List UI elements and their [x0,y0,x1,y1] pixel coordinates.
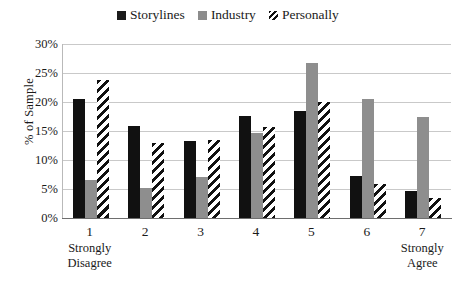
legend-item-personally: Personally [269,8,339,22]
y-tick-label: 0% [41,212,58,225]
bar-storylines-1 [73,99,85,218]
y-tick-label: 20% [35,96,58,109]
bar-group [239,44,275,218]
plot-area [62,44,450,218]
legend-swatch-industry-icon [198,11,207,20]
y-tick-label: 5% [41,183,58,196]
x-tick-caption: Disagree [63,256,117,271]
bar-industry-3 [196,177,208,218]
x-tick-group: 3 [174,222,228,284]
bar-personally-6 [374,184,386,218]
x-axis-tick-labels: 1StronglyDisagree234567StronglyAgree [62,222,450,284]
bar-storylines-4 [239,116,251,218]
bar-storylines-7 [405,191,417,218]
y-tick-label: 15% [35,125,58,138]
bar-industry-4 [251,133,263,218]
x-tick-group: 7StronglyAgree [395,222,449,284]
x-tick-group: 4 [229,222,283,284]
bar-industry-7 [417,117,429,218]
x-tick-number: 3 [174,222,228,241]
y-tick-label: 25% [35,67,58,80]
bar-personally-4 [263,127,275,218]
legend-item-storylines: Storylines [117,8,185,22]
x-tick-caption: Agree [395,256,449,271]
bar-personally-2 [152,143,164,218]
bar-group [350,44,386,218]
x-tick-group: 1StronglyDisagree [63,222,117,284]
bar-group [128,44,164,218]
bar-group [73,44,109,218]
legend-label-industry: Industry [211,8,256,22]
x-tick-number: 7 [395,222,449,241]
bar-industry-1 [85,180,97,218]
bar-group [184,44,220,218]
bar-personally-3 [208,140,220,218]
legend-swatch-storylines-icon [117,11,126,20]
bar-storylines-6 [350,176,362,218]
x-tick-number: 5 [284,222,338,241]
x-tick-group: 5 [284,222,338,284]
x-tick-caption: Strongly [63,241,117,256]
x-tick-group: 6 [340,222,394,284]
chart-legend: Storylines Industry Personally [0,4,456,26]
legend-label-personally: Personally [282,8,339,22]
y-tick-label: 10% [35,154,58,167]
x-tick-number: 1 [63,222,117,241]
bar-personally-7 [429,198,441,218]
bar-storylines-3 [184,141,196,218]
x-tick-number: 6 [340,222,394,241]
bar-storylines-5 [294,111,306,218]
legend-swatch-personally-icon [269,11,278,20]
bar-industry-5 [306,63,318,218]
x-tick-caption: Strongly [395,241,449,256]
y-tick-label: 30% [35,38,58,51]
bar-groups [63,44,451,218]
bar-industry-2 [140,188,152,218]
y-axis-tick-labels: 30%25%20%15%10%5%0% [26,44,58,218]
bar-group [294,44,330,218]
bar-storylines-2 [128,126,140,218]
legend-item-industry: Industry [198,8,256,22]
bar-personally-5 [318,102,330,218]
x-tick-number: 2 [118,222,172,241]
bar-group [405,44,441,218]
x-tick-number: 4 [229,222,283,241]
bar-industry-6 [362,99,374,218]
x-tick-group: 2 [118,222,172,284]
x-axis-line [62,218,452,219]
bar-personally-1 [97,80,109,218]
legend-label-storylines: Storylines [130,8,185,22]
